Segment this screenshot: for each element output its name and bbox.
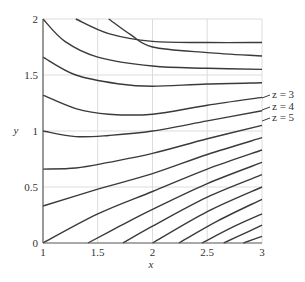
y-tick-label: 2 [33, 13, 39, 25]
z3-label: z = 3 [272, 88, 295, 100]
y-tick-label: 1 [33, 125, 39, 137]
x-tick-label: 2 [150, 246, 156, 258]
y-axis-label: y [13, 124, 19, 136]
y-tick-label: 0 [33, 237, 39, 249]
contour-line [88, 162, 262, 243]
x-tick-label: 2.5 [200, 246, 214, 258]
x-tick-label: 3 [259, 246, 265, 258]
x-tick-label: 1.5 [91, 246, 105, 258]
z3-leader [262, 95, 270, 98]
z5-leader [262, 118, 270, 121]
contour-line [109, 19, 262, 56]
y-tick-label: 1.5 [24, 69, 38, 81]
z4-leader [262, 107, 270, 110]
z5-label: z = 5 [272, 111, 295, 123]
y-tick-label: 0.5 [24, 181, 38, 193]
contour-line [224, 225, 262, 243]
contour-line [76, 19, 262, 43]
contour-chart: 0 0.5 1 1.5 2 1 1.5 2 2.5 3 x y z = 3 z … [0, 0, 305, 282]
x-tick-label: 1 [40, 246, 46, 258]
contour-line [243, 236, 262, 243]
x-axis-label: x [148, 258, 154, 270]
